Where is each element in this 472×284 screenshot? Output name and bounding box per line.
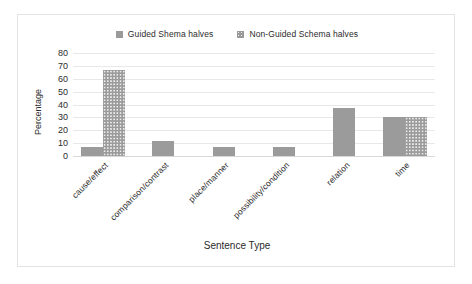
bar[interactable]	[213, 147, 235, 156]
y-axis-tick-60: 60	[58, 74, 68, 83]
y-axis-title: Percentage	[32, 71, 44, 153]
plot-wrapper: Percentage 80706050403020100 cause/effec…	[18, 15, 456, 268]
plot-area	[73, 53, 435, 156]
bar-groups	[73, 53, 435, 156]
y-axis-tick-40: 40	[58, 100, 68, 109]
bar[interactable]	[103, 70, 125, 156]
bar-group	[314, 53, 374, 156]
x-axis-tick-cell: time	[375, 158, 435, 238]
y-axis-tick-labels: 80706050403020100	[44, 46, 68, 156]
y-axis-tick-20: 20	[58, 126, 68, 135]
y-axis-tick-10: 10	[58, 139, 68, 148]
bar[interactable]	[333, 108, 355, 156]
x-axis-title: Sentence Type	[18, 240, 456, 251]
x-axis-tick-cell: comparison/contrast	[133, 158, 193, 238]
x-axis-tick-cell: relation	[314, 158, 374, 238]
x-axis-tick-labels: cause/effectcomparison/contrastplace/man…	[73, 158, 435, 238]
bar[interactable]	[405, 117, 427, 156]
bar-group	[254, 53, 314, 156]
bar[interactable]	[383, 117, 405, 156]
bar-group	[73, 53, 133, 156]
x-axis-tick-label: time	[393, 160, 412, 179]
y-axis-tick-0: 0	[63, 152, 68, 161]
bar[interactable]	[273, 147, 295, 156]
x-axis-tick-cell: possibility/condition	[254, 158, 314, 238]
axis-baseline	[73, 156, 435, 157]
x-axis-tick-label: place/manner	[187, 160, 231, 204]
y-axis-tick-50: 50	[58, 87, 68, 96]
y-axis-tick-30: 30	[58, 113, 68, 122]
chart-container: Guided Shema halves Non-Guided Schema ha…	[17, 14, 455, 267]
bar-group	[375, 53, 435, 156]
bar-group	[194, 53, 254, 156]
y-axis-tick-70: 70	[58, 61, 68, 70]
y-axis-title-text: Percentage	[33, 89, 43, 135]
y-axis-tick-80: 80	[58, 49, 68, 58]
bar-group	[133, 53, 193, 156]
x-axis-tick-label: relation	[324, 160, 351, 187]
x-axis-tick-label: cause/effect	[70, 160, 110, 200]
bar[interactable]	[152, 141, 174, 156]
bar[interactable]	[81, 147, 103, 156]
